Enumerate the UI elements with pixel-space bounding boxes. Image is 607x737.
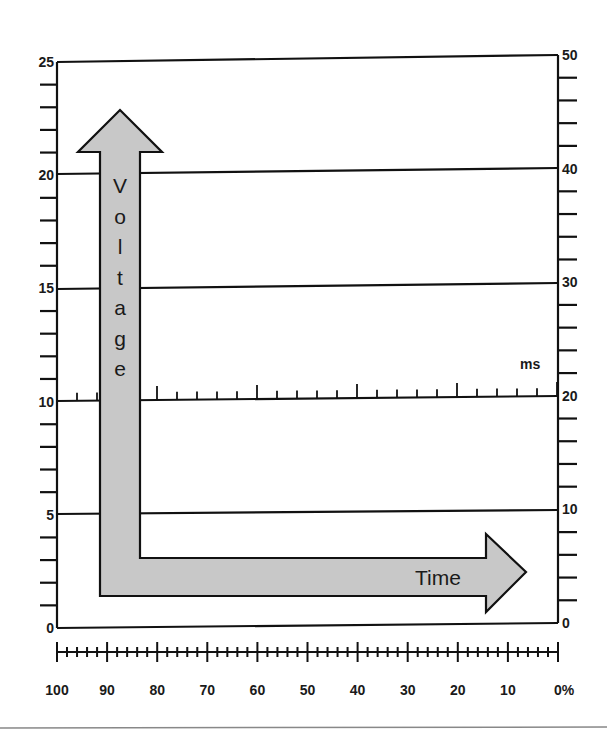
- left-axis-label: 25: [38, 54, 54, 70]
- bottom-separator: [0, 727, 607, 728]
- voltage-time-arrow-shape: [78, 110, 526, 612]
- voltage-letter: e: [114, 357, 126, 380]
- voltage-letter: V: [113, 174, 127, 197]
- ruler-label: 90: [99, 682, 115, 698]
- right-axis-label: 50: [562, 47, 578, 63]
- ruler-label: 30: [400, 682, 416, 698]
- left-axis-label: 10: [38, 394, 54, 410]
- gridline-0: [57, 623, 558, 628]
- gridline-25: [57, 55, 558, 62]
- left-axis-label: 0: [46, 620, 54, 636]
- ruler-label: 60: [250, 682, 266, 698]
- voltage-letter: g: [114, 327, 126, 350]
- right-axis-ticks: [558, 78, 577, 601]
- left-axis-label: 15: [38, 280, 54, 296]
- time-label: Time: [415, 566, 461, 589]
- right-axis-label: 10: [562, 501, 578, 517]
- ruler-label: 80: [149, 682, 165, 698]
- percent-ruler: [57, 642, 558, 662]
- ruler-label: 100: [45, 682, 69, 698]
- ruler-label: 40: [350, 682, 366, 698]
- ecg-grid-diagram: 0510152025 01020304050 ms Voltage Time 1…: [0, 0, 607, 737]
- left-axis-ticks: [40, 85, 57, 606]
- right-axis-label: 40: [562, 161, 578, 177]
- ruler-label: 20: [450, 682, 466, 698]
- right-axis-labels: 01020304050: [562, 47, 578, 631]
- percent-ruler-labels: 1009080706050403020100%: [45, 682, 574, 698]
- time-baseline-ticks: [77, 382, 557, 401]
- voltage-letter: o: [114, 205, 126, 228]
- voltage-letter: t: [117, 266, 123, 289]
- left-axis-labels: 0510152025: [38, 54, 54, 636]
- ruler-label: 50: [300, 682, 316, 698]
- right-axis-label: 0: [562, 615, 570, 631]
- ruler-label: 10: [500, 682, 516, 698]
- voltage-letter: a: [114, 296, 126, 319]
- left-axis-label: 5: [46, 507, 54, 523]
- axis-arrows: [78, 110, 526, 612]
- right-axis-label: 30: [562, 274, 578, 290]
- right-axis-label: 20: [562, 388, 578, 404]
- ruler-label: 0%: [554, 682, 575, 698]
- voltage-letter: l: [118, 235, 123, 258]
- ruler-label: 70: [200, 682, 216, 698]
- ms-unit-label: ms: [520, 356, 540, 372]
- left-axis-label: 20: [38, 167, 54, 183]
